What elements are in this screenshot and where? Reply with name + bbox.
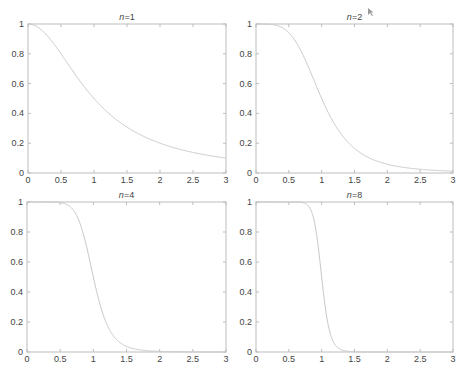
series-line-n2	[256, 24, 453, 171]
y-tick-label: 0.8	[10, 227, 23, 237]
y-tick-label: 0.2	[239, 138, 252, 148]
y-tick-label: 0	[247, 168, 252, 178]
y-tick-label: 0.4	[239, 108, 252, 118]
axes-frame	[256, 202, 453, 352]
x-tick-label: 2	[385, 175, 390, 185]
x-tick-label: 3	[450, 175, 455, 185]
x-tick-label: 0.5	[54, 354, 67, 364]
title-value: =8	[352, 190, 362, 200]
x-tick-label: 0.5	[283, 354, 296, 364]
figure: 00.511.522.5300.20.40.60.81n=100.511.522…	[0, 0, 466, 372]
x-tick-label: 1	[91, 354, 96, 364]
y-tick-label: 0.2	[239, 317, 252, 327]
x-tick-label: 1	[319, 354, 324, 364]
x-tick-label: 2.5	[187, 354, 200, 364]
subplot-title: n=8	[347, 190, 362, 200]
x-tick-label: 2	[157, 354, 162, 364]
title-value: =4	[124, 190, 134, 200]
x-tick-label: 0.5	[55, 175, 68, 185]
y-tick-label: 0.4	[11, 108, 24, 118]
subplot-n1: 00.511.522.5300.20.40.60.81n=1	[11, 12, 228, 185]
axes-frame	[256, 24, 453, 173]
x-tick-label: 0.5	[283, 175, 296, 185]
x-tick-label: 0	[253, 354, 258, 364]
y-tick-label: 0.4	[239, 287, 252, 297]
x-tick-label: 0	[253, 175, 258, 185]
subplot-n8: 00.511.522.5300.20.40.60.81n=8	[239, 190, 455, 364]
x-tick-label: 1.5	[120, 354, 133, 364]
y-tick-label: 0.4	[10, 287, 23, 297]
x-tick-label: 2.5	[414, 175, 427, 185]
y-tick-label: 0.2	[11, 138, 24, 148]
x-tick-label: 2	[157, 175, 162, 185]
axes-frame	[28, 24, 226, 173]
series-line-n8	[256, 202, 453, 352]
y-tick-label: 0.8	[239, 49, 252, 59]
y-tick-label: 0.6	[10, 257, 23, 267]
axes-frame	[27, 202, 226, 352]
x-tick-label: 3	[450, 354, 455, 364]
x-tick-label: 1	[91, 175, 96, 185]
x-tick-label: 1	[319, 175, 324, 185]
subplot-title: n=1	[119, 12, 134, 22]
x-tick-label: 0	[25, 175, 30, 185]
y-tick-label: 0	[247, 347, 252, 357]
y-tick-label: 0.2	[10, 317, 23, 327]
series-line-n4	[27, 202, 226, 352]
subplot-n4: 00.511.522.5300.20.40.60.81n=4	[10, 190, 228, 364]
subplot-n2: 00.511.522.5300.20.40.60.81n=2	[239, 12, 455, 185]
y-tick-label: 1	[247, 19, 252, 29]
x-tick-label: 1.5	[348, 175, 361, 185]
y-tick-label: 1	[19, 19, 24, 29]
series-line-n1	[28, 24, 226, 158]
y-tick-label: 0	[19, 168, 24, 178]
title-value: =2	[352, 12, 362, 22]
y-tick-label: 0.6	[11, 79, 24, 89]
x-tick-label: 3	[223, 354, 228, 364]
x-tick-label: 1.5	[348, 354, 361, 364]
y-tick-label: 0.6	[239, 79, 252, 89]
y-tick-label: 0.8	[239, 227, 252, 237]
y-tick-label: 0.8	[11, 49, 24, 59]
title-value: =1	[124, 12, 134, 22]
subplot-title: n=4	[119, 190, 134, 200]
y-tick-label: 0	[18, 347, 23, 357]
y-tick-label: 1	[18, 197, 23, 207]
x-tick-label: 2.5	[414, 354, 427, 364]
x-tick-label: 2.5	[187, 175, 200, 185]
subplot-title: n=2	[347, 12, 362, 22]
y-tick-label: 1	[247, 197, 252, 207]
y-tick-label: 0.6	[239, 257, 252, 267]
x-tick-label: 1.5	[121, 175, 134, 185]
mouse-cursor-icon	[368, 8, 374, 16]
x-tick-label: 0	[24, 354, 29, 364]
x-tick-label: 2	[385, 354, 390, 364]
x-tick-label: 3	[223, 175, 228, 185]
